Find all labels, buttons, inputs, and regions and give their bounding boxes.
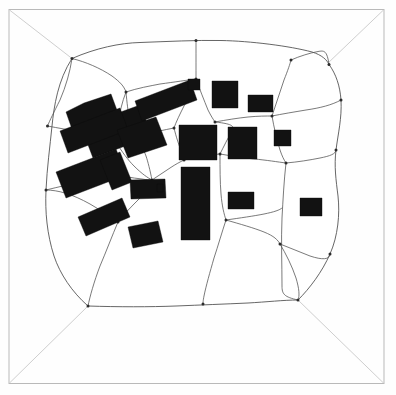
plan-svg (0, 0, 396, 395)
node-23 (279, 243, 282, 246)
node-14 (335, 149, 338, 152)
node-25 (329, 253, 332, 256)
building-rect-n2 (248, 95, 273, 112)
building-notch-w (157, 184, 163, 192)
node-13 (285, 162, 288, 165)
building-rect-e2 (228, 192, 254, 209)
node-19 (225, 219, 228, 222)
node-21 (87, 305, 90, 308)
node-12 (340, 99, 343, 102)
building-rect-c-big (179, 125, 217, 160)
node-26 (173, 127, 176, 130)
node-01 (71, 57, 74, 60)
node-03 (45, 189, 48, 192)
building-rect-e3 (300, 198, 322, 216)
building-rect-c-tall (181, 167, 210, 240)
building-rect-ce (228, 127, 257, 159)
node-08 (214, 121, 217, 124)
node-02 (46, 125, 49, 128)
node-10 (290, 59, 293, 62)
node-18 (219, 153, 222, 156)
node-24 (297, 299, 300, 302)
node-22 (202, 303, 205, 306)
figure-ground-diagram (0, 0, 396, 395)
building-rect-e1 (274, 130, 291, 146)
building-rect-n3 (188, 79, 200, 90)
node-11 (328, 63, 331, 66)
node-07 (195, 39, 198, 42)
node-04 (125, 91, 128, 94)
building-rect-n1 (212, 81, 238, 108)
node-09 (271, 115, 274, 118)
